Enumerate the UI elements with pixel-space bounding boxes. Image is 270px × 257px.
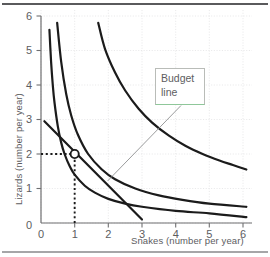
indifference-curve-1 [49, 30, 246, 217]
y-tick-label-4: 4 [22, 79, 36, 91]
x-tick-label-0: 0 [34, 228, 48, 240]
chart-canvas [0, 0, 270, 257]
x-tick-label-2: 2 [101, 228, 115, 240]
budget-line [44, 121, 142, 219]
callout-label-line-1: Budget [161, 72, 204, 86]
axis-ticks [37, 16, 244, 228]
budget-line-callout-box: Budget line [155, 68, 205, 105]
callout-leader-line [108, 106, 181, 181]
y-tick-label-6: 6 [22, 10, 36, 22]
y-tick-label-1: 1 [22, 182, 36, 194]
y-tick-label-2: 2 [22, 148, 36, 160]
x-axis-title: Snakes (number per year) [131, 235, 244, 246]
y-axis-title: Lizards (number per year) [13, 93, 24, 205]
best-affordable-point-marker [71, 150, 79, 158]
y-tick-label-3: 3 [22, 113, 36, 125]
figure-container: 6 5 4 3 2 1 0 0 1 2 3 4 5 6 Lizards (num… [0, 0, 270, 257]
y-tick-label-5: 5 [22, 44, 36, 56]
x-tick-label-1: 1 [68, 228, 82, 240]
callout-label-line-2: line [161, 86, 204, 100]
